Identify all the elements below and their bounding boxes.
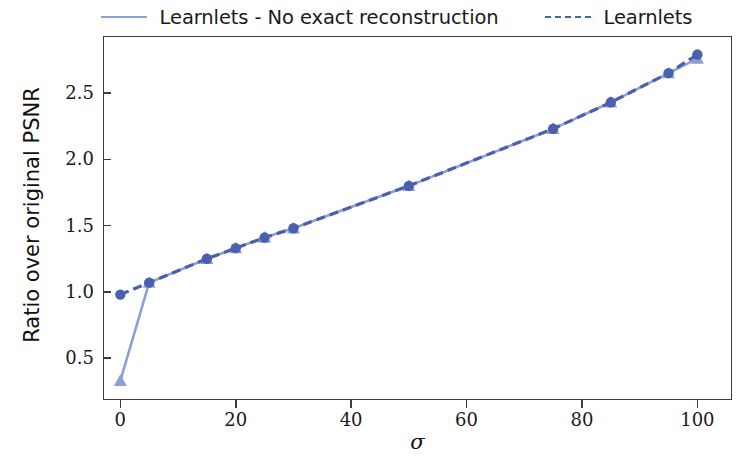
legend-entry-learnlets: Learnlets	[545, 6, 693, 29]
triangle-marker-icon	[124, 17, 136, 36]
x-axis-tick	[466, 400, 468, 408]
legend-label-no-exact-reconstruction: Learnlets - No exact reconstruction	[160, 6, 499, 29]
y-axis-tick	[103, 225, 111, 227]
chart-legend: Learnlets - No exact reconstruction Lear…	[0, 0, 753, 34]
data-point-marker	[114, 374, 127, 386]
data-point-marker	[115, 289, 125, 299]
data-point-marker	[404, 181, 414, 191]
legend-sample-dashed-circle	[545, 9, 591, 25]
data-point-marker	[663, 68, 673, 78]
x-axis-label: σ	[103, 430, 732, 454]
y-axis-tick-label: 0.5	[34, 347, 94, 367]
y-axis-tick	[103, 92, 111, 94]
data-point-marker	[288, 223, 298, 233]
y-axis-tick	[103, 291, 111, 293]
y-axis-tick-label: 2.0	[34, 148, 94, 168]
legend-entry-no-exact-reconstruction: Learnlets - No exact reconstruction	[101, 6, 499, 29]
legend-label-learnlets: Learnlets	[604, 6, 693, 29]
y-axis-tick-label: 1.0	[34, 281, 94, 301]
psnr-ratio-chart-figure: Learnlets - No exact reconstruction Lear…	[0, 0, 753, 463]
plot-data-layer	[103, 36, 732, 400]
y-axis-tick-label: 2.5	[34, 82, 94, 102]
legend-line-dashed	[545, 16, 591, 18]
x-axis-tick	[581, 400, 583, 408]
x-axis-tick	[235, 400, 237, 408]
data-point-marker	[606, 97, 616, 107]
x-axis-tick	[120, 400, 122, 408]
y-axis-tick-label: 1.5	[34, 215, 94, 235]
data-point-marker	[144, 277, 154, 287]
data-point-marker	[259, 232, 269, 242]
data-point-marker	[692, 49, 702, 59]
data-point-marker	[548, 124, 558, 134]
y-axis-tick	[103, 357, 111, 359]
data-point-marker	[202, 254, 212, 264]
x-axis-tick	[350, 400, 352, 408]
x-axis-tick	[697, 400, 699, 408]
legend-sample-solid-triangle	[101, 9, 147, 25]
y-axis-tick	[103, 159, 111, 161]
data-point-marker	[231, 243, 241, 253]
